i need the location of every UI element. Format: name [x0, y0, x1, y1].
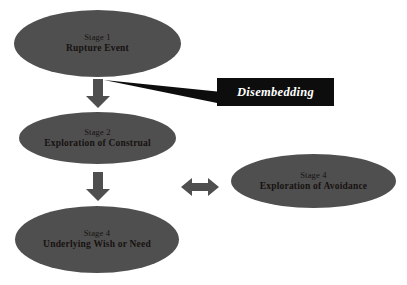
- diagram-canvas: Stage 1 Rupture Event Stage 2 Exploratio…: [0, 0, 407, 285]
- node-stage-label: Stage 1: [84, 32, 111, 42]
- node-exploration-of-avoidance[interactable]: Stage 4 Exploration of Avoidance: [231, 154, 396, 208]
- node-stage-label: Stage 4: [84, 228, 111, 238]
- node-exploration-of-construal[interactable]: Stage 2 Exploration of Construal: [19, 112, 176, 164]
- node-title-label: Rupture Event: [66, 43, 129, 54]
- leader-line-pointer-icon: [104, 74, 222, 108]
- node-rupture-event[interactable]: Stage 1 Rupture Event: [14, 10, 181, 77]
- node-title-label: Exploration of Construal: [44, 138, 151, 149]
- node-underlying-wish-or-need[interactable]: Stage 4 Underlying Wish or Need: [15, 206, 179, 273]
- node-title-label: Underlying Wish or Need: [43, 239, 151, 250]
- callout-disembedding[interactable]: Disembedding: [217, 78, 334, 106]
- node-title-label: Exploration of Avoidance: [260, 181, 368, 192]
- callout-label: Disembedding: [237, 85, 314, 100]
- arrow-down-icon: [85, 172, 111, 202]
- node-stage-label: Stage 4: [300, 170, 327, 180]
- node-stage-label: Stage 2: [84, 127, 111, 137]
- arrow-left-right-icon: [181, 176, 219, 198]
